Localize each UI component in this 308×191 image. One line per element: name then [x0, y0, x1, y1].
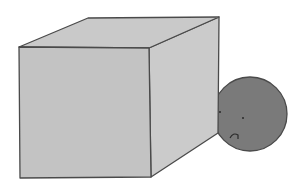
right-eye-icon	[242, 117, 244, 119]
left-eye-icon	[219, 111, 221, 113]
cube	[19, 17, 219, 178]
illustration-canvas	[0, 0, 308, 191]
cube-and-ball-drawing	[0, 0, 308, 191]
cube-front-face	[19, 47, 151, 178]
sad-ball	[213, 77, 287, 151]
ball-body	[213, 77, 287, 151]
